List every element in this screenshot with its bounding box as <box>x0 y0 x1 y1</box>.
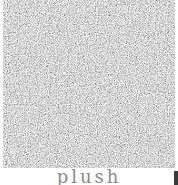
texture-image <box>3 0 175 168</box>
edge-marker <box>174 171 178 185</box>
plush-texture-swatch[interactable] <box>3 0 175 168</box>
swatch-label: plush <box>0 166 178 185</box>
